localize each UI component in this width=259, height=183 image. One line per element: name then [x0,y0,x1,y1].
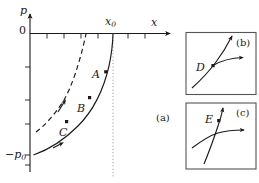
inset-c-point-e [217,119,220,122]
panel-label-c: (c) [236,108,249,118]
inset-c-point-label: E [205,114,213,125]
data-point-b [88,96,91,99]
figure-canvas [0,0,259,183]
main-panel-axes [25,14,170,172]
point-label-b: B [77,103,85,114]
y-axis-label: p [20,5,27,16]
solid-trajectory-arrow [53,144,62,149]
solid-trajectory-curve [34,34,114,156]
data-point-a [104,70,107,73]
inset-b-point-d [211,64,214,67]
panel-label-b: (b) [236,38,250,48]
inset-b-point-label: D [196,62,205,73]
point-label-a: A [92,69,100,80]
x-axis-ticks [47,34,145,39]
data-point-c [65,120,68,123]
panel-label-a: (a) [156,113,170,123]
x0-marker-label: x0 [105,16,116,28]
y-min-label: −p0 [5,149,26,161]
dashed-trajectory-curve [36,34,86,132]
point-label-c: C [59,127,67,138]
origin-label: 0 [19,25,26,36]
x-axis-label: x [151,17,157,28]
